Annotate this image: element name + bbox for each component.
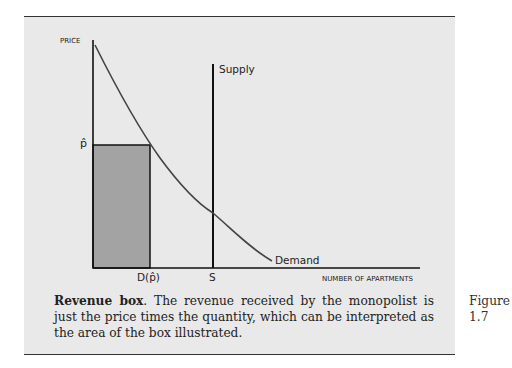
d-p-hat-label: D(p̂) [137, 271, 160, 283]
s-label: S [209, 271, 216, 283]
p-hat-label: p̂ [80, 137, 87, 150]
figure-number: Figure 1.7 [469, 293, 510, 325]
caption-title: Revenue box [54, 294, 143, 308]
revenue-box [93, 145, 150, 268]
x-axis-label: NUMBER OF APARTMENTS [322, 275, 413, 283]
demand-label: Demand [275, 254, 320, 266]
figure-num: 1.7 [469, 309, 510, 325]
y-axis-label: PRICE [60, 37, 80, 45]
figure-word: Figure [469, 293, 510, 309]
supply-label: Supply [219, 63, 255, 75]
figure-caption: Revenue box. The revenue received by the… [54, 293, 434, 341]
